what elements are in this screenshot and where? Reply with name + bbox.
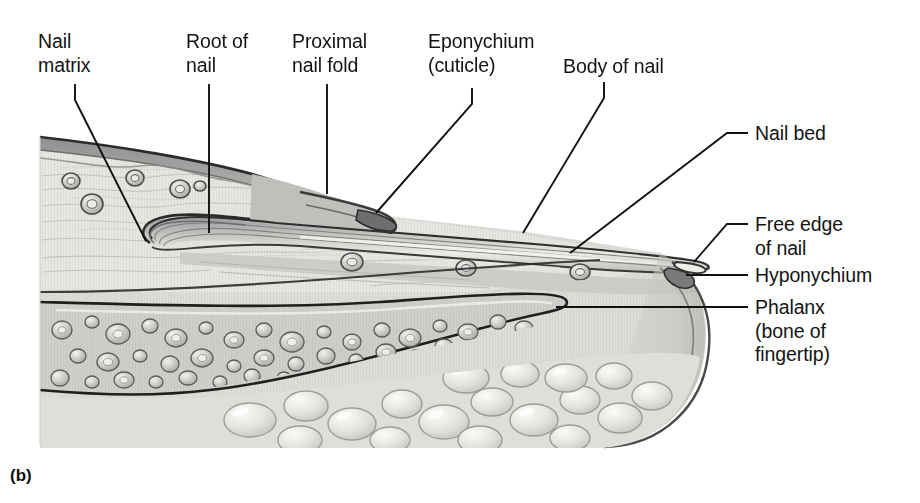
label-free-edge-of-nail: Free edge of nail (755, 213, 843, 260)
label-proximal-nail-fold: Proximal nail fold (292, 30, 367, 77)
label-nail-bed: Nail bed (755, 122, 826, 146)
label-hyponychium: Hyponychium (755, 264, 872, 288)
leader-eponychium-cuticle (376, 88, 472, 213)
label-nail-matrix: Nail matrix (38, 30, 90, 77)
label-body-of-nail: Body of nail (563, 55, 664, 79)
fingertip-cross-section (38, 137, 718, 460)
leader-free-edge-of-nail (694, 224, 748, 262)
figure-caption: (b) (10, 466, 32, 486)
label-root-of-nail: Root of nail (186, 30, 248, 77)
label-phalanx: Phalanx (bone of fingertip) (755, 296, 830, 367)
leader-nail-bed (570, 133, 748, 253)
label-eponychium-cuticle: Eponychium (cuticle) (428, 30, 534, 77)
figure-container: Nail matrixRoot of nailProximal nail fol… (0, 0, 920, 503)
leader-body-of-nail (523, 82, 604, 233)
